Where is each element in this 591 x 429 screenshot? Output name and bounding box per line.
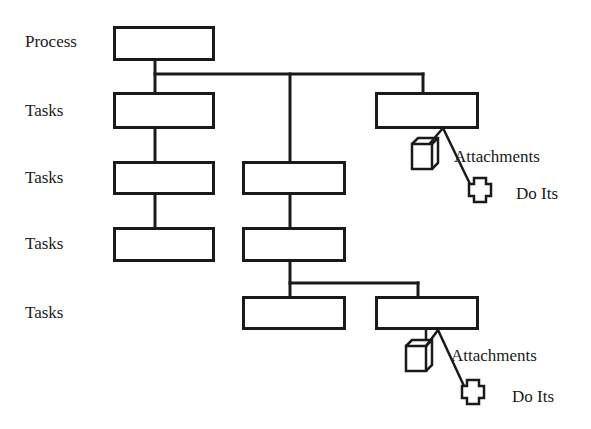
attachment-cube-icon-top (412, 138, 438, 169)
task-box-row2-col1[interactable] (113, 161, 215, 195)
attachment-cube-icon-bottom (406, 340, 432, 371)
task-box-row1-col1[interactable] (113, 92, 215, 129)
task-box-row3-col2[interactable] (242, 227, 346, 262)
process-box[interactable] (113, 26, 215, 61)
do-it-cross-icon-top (469, 178, 491, 202)
do-its-label-top: Do Its (516, 185, 558, 202)
task-box-row1-col3[interactable] (375, 92, 479, 129)
attachments-label-top: Attachments (454, 148, 540, 165)
do-its-label-bottom: Do Its (512, 388, 554, 405)
attachments-label-bottom: Attachments (451, 347, 537, 364)
task-box-row2-col2[interactable] (242, 161, 346, 195)
task-box-row4-col3[interactable] (375, 296, 479, 330)
task-box-row4-col2[interactable] (242, 296, 346, 330)
do-it-cross-icon-bottom (462, 380, 484, 404)
task-box-row3-col1[interactable] (113, 227, 215, 262)
